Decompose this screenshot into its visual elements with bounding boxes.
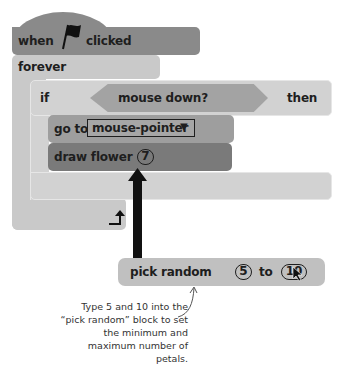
- chevron-down-icon: ▼: [180, 121, 188, 132]
- clicked-label: clicked: [86, 34, 131, 48]
- forever-block-bottom: [12, 198, 126, 230]
- go-to-label: go to: [54, 122, 88, 136]
- draw-flower-block[interactable]: draw flower 7: [48, 143, 232, 171]
- if-label: if: [40, 91, 49, 105]
- to-label: to: [259, 265, 273, 279]
- then-label: then: [287, 91, 317, 105]
- arrow-up-icon: [128, 168, 147, 181]
- green-flag-icon: [59, 22, 83, 50]
- condition-label: mouse down?: [118, 91, 208, 105]
- draw-flower-label: draw flower: [54, 150, 132, 164]
- mouse-down-condition[interactable]: mouse down?: [90, 84, 268, 112]
- if-block-bottom: [30, 172, 332, 200]
- go-to-target-dropdown[interactable]: mouse-pointer ▼: [87, 119, 195, 137]
- petals-input[interactable]: 7: [137, 149, 154, 165]
- min-input[interactable]: 5: [235, 264, 252, 280]
- dropdown-value: mouse-pointer: [92, 121, 188, 135]
- when-flag-clicked-block[interactable]: when clicked: [12, 27, 200, 55]
- forever-block[interactable]: forever: [12, 55, 160, 79]
- loop-arrow-icon: [108, 210, 126, 226]
- when-label: when: [18, 34, 54, 48]
- pick-random-label: pick random: [130, 265, 212, 279]
- annotation-text: Type 5 and 10 into the “pick random” blo…: [58, 300, 188, 365]
- mouse-cursor-icon: [292, 266, 304, 282]
- drag-arrow-shaft: [133, 178, 142, 260]
- forever-label: forever: [18, 60, 66, 74]
- pick-random-block[interactable]: pick random 5 to 10: [118, 258, 325, 286]
